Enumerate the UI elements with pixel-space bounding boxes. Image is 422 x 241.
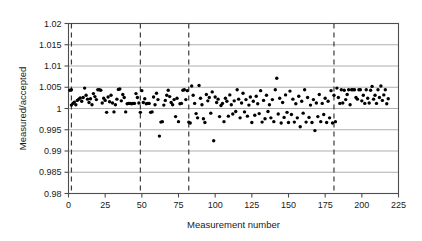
data-point [279, 121, 282, 124]
data-point [161, 120, 164, 123]
data-point [167, 89, 170, 92]
data-point [150, 110, 153, 113]
data-point [186, 89, 189, 92]
data-point [137, 101, 140, 104]
data-point [281, 101, 284, 104]
data-point [321, 102, 324, 105]
data-point [101, 101, 104, 104]
data-point [387, 97, 390, 100]
data-point [133, 102, 136, 105]
data-point [326, 100, 329, 103]
data-point [282, 116, 285, 119]
data-point [168, 95, 171, 98]
data-point [310, 121, 313, 124]
data-point [335, 86, 338, 89]
data-point [304, 120, 307, 123]
data-point [372, 97, 375, 100]
data-point [221, 102, 224, 105]
data-point [285, 111, 288, 114]
data-point [253, 114, 256, 117]
data-point [197, 84, 200, 87]
data-point [164, 99, 167, 102]
data-point [379, 84, 382, 87]
data-point [115, 97, 118, 100]
data-point [318, 93, 321, 96]
data-point [152, 95, 155, 98]
data-point [293, 120, 296, 123]
data-point [177, 120, 180, 123]
data-point [108, 100, 111, 103]
data-point [237, 97, 240, 100]
data-point [252, 100, 255, 103]
data-point [260, 120, 263, 123]
data-point [323, 97, 326, 100]
data-point [250, 121, 253, 124]
data-point [224, 97, 227, 100]
data-point [156, 98, 159, 101]
data-point [79, 96, 82, 99]
data-point [384, 88, 387, 91]
data-point [269, 116, 272, 119]
data-point [348, 103, 351, 106]
data-point [112, 110, 115, 113]
data-point [271, 98, 274, 101]
data-point [194, 112, 197, 115]
x-tick-label: 175 [318, 200, 333, 210]
x-tick-label: 225 [391, 200, 406, 210]
x-tick-label: 125 [244, 200, 259, 210]
data-point [340, 88, 343, 91]
data-point [278, 97, 281, 100]
data-point [230, 103, 233, 106]
data-point [111, 101, 114, 104]
x-tick-label: 75 [173, 200, 183, 210]
data-point [155, 92, 158, 95]
data-point [123, 96, 126, 99]
data-point [322, 113, 325, 116]
data-point [172, 98, 175, 101]
y-tick-label: 1 [56, 104, 61, 114]
data-point [92, 92, 95, 95]
data-point [143, 97, 146, 100]
x-tick-label: 150 [281, 200, 296, 210]
data-point [211, 90, 214, 93]
data-point [190, 84, 193, 87]
data-point [121, 93, 124, 96]
data-point [319, 120, 322, 123]
data-point [234, 110, 237, 113]
data-point [375, 102, 378, 105]
data-point-group [68, 77, 390, 143]
x-tick-label: 200 [354, 200, 369, 210]
data-point [291, 97, 294, 100]
data-point [294, 102, 297, 105]
data-point [189, 121, 192, 124]
data-point [90, 103, 93, 106]
x-tick-label: 50 [137, 200, 147, 210]
data-point [228, 93, 231, 96]
data-point [288, 89, 291, 92]
x-tick-label: 0 [66, 200, 71, 210]
data-point [366, 97, 369, 100]
data-point [199, 97, 202, 100]
data-point [299, 125, 302, 128]
data-point [139, 111, 142, 114]
x-tick-label: 100 [208, 200, 223, 210]
data-point [218, 115, 221, 118]
data-point [360, 99, 363, 102]
data-point [99, 89, 102, 92]
data-point [238, 116, 241, 119]
data-point [105, 111, 108, 114]
data-point [376, 88, 379, 91]
data-point [370, 85, 373, 88]
data-point [203, 121, 206, 124]
data-point [263, 117, 266, 120]
data-point [385, 102, 388, 105]
data-point [83, 86, 86, 89]
y-tick-label: 1.01 [44, 61, 62, 71]
data-point [86, 97, 89, 100]
data-point [300, 100, 303, 103]
data-point [84, 94, 87, 97]
data-point [256, 102, 259, 105]
data-point [328, 116, 331, 119]
data-point [202, 117, 205, 120]
data-point [249, 95, 252, 98]
